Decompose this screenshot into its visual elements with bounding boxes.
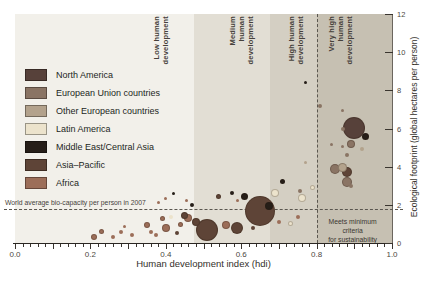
x-minor-tick xyxy=(23,244,24,247)
development-band-label: Very highhumandevelopment xyxy=(327,16,354,108)
country-bubble xyxy=(149,230,153,234)
country-bubble xyxy=(160,216,165,221)
legend-color-swatch xyxy=(25,177,47,189)
x-major-tick xyxy=(241,244,242,249)
x-minor-tick xyxy=(271,244,272,247)
y-tick xyxy=(385,205,393,206)
country-bubble xyxy=(119,230,123,234)
development-band-label-line: development xyxy=(161,16,170,108)
x-minor-tick xyxy=(60,244,61,247)
legend-color-swatch xyxy=(25,69,47,81)
x-axis-title: Human development index (hdi) xyxy=(15,258,392,269)
x-minor-tick xyxy=(173,244,174,247)
development-band-label: Mediumhumandevelopment xyxy=(228,16,255,108)
country-bubble xyxy=(175,231,179,235)
x-minor-tick xyxy=(143,244,144,247)
world-biocapacity-dashed-line xyxy=(4,209,403,210)
x-major-tick xyxy=(166,244,167,249)
legend-item: Latin America xyxy=(25,120,111,138)
country-bubble xyxy=(251,226,255,230)
x-minor-tick xyxy=(188,244,189,247)
legend-item-label: Other European countries xyxy=(56,106,159,116)
x-major-tick xyxy=(204,244,205,249)
x-major-tick xyxy=(15,244,16,249)
country-bubble xyxy=(296,215,300,219)
legend-item: Other European countries xyxy=(25,102,159,120)
country-bubble xyxy=(172,192,175,195)
legend-item: Asia–Pacific xyxy=(25,156,105,174)
development-band-label-line: Medium xyxy=(228,16,237,108)
x-minor-tick xyxy=(256,244,257,247)
country-bubble xyxy=(216,194,221,199)
legend-color-swatch xyxy=(25,159,47,171)
x-minor-tick xyxy=(234,244,235,247)
sustainability-label-line1: Meets minimum criteria xyxy=(321,217,385,235)
country-bubble xyxy=(144,222,150,228)
x-minor-tick xyxy=(45,244,46,247)
development-band-label-line: human xyxy=(237,16,246,108)
x-minor-tick xyxy=(302,244,303,247)
country-bubble xyxy=(277,220,281,224)
development-band-label-line: development xyxy=(345,16,354,108)
country-bubble xyxy=(192,218,200,226)
country-bubble xyxy=(245,196,275,226)
development-band-label-line: Very high xyxy=(327,16,336,108)
legend-color-swatch xyxy=(25,141,47,153)
legend-item: North America xyxy=(25,66,113,84)
country-bubble xyxy=(345,153,349,157)
legend-item-label: Africa xyxy=(56,178,79,188)
x-major-tick xyxy=(279,244,280,249)
legend-color-swatch xyxy=(25,123,47,135)
y-axis-title: Ecological footprint (global hectares pe… xyxy=(409,0,421,286)
country-bubble xyxy=(341,127,345,131)
legend-item: Middle East/Central Asia xyxy=(25,138,154,156)
development-band-label-line: development xyxy=(296,16,305,108)
country-bubble xyxy=(298,194,306,202)
ecological-footprint-vs-hdi-chart: Low humandevelopmentMediumhumandevelopme… xyxy=(0,0,429,286)
x-major-tick xyxy=(53,244,54,249)
development-band-label-line: High human xyxy=(287,16,296,108)
x-major-tick xyxy=(317,244,318,249)
x-minor-tick xyxy=(377,244,378,247)
x-minor-tick xyxy=(384,244,385,247)
legend-color-swatch xyxy=(25,87,47,99)
country-bubble xyxy=(185,199,188,202)
development-band-label: High humandevelopment xyxy=(287,16,305,108)
x-minor-tick xyxy=(286,244,287,247)
country-bubble xyxy=(236,199,239,202)
country-bubble xyxy=(222,221,230,229)
x-minor-tick xyxy=(121,244,122,247)
legend-item-label: Asia–Pacific xyxy=(56,160,105,170)
legend-item-label: European Union countries xyxy=(56,88,160,98)
x-minor-tick xyxy=(309,244,310,247)
x-minor-tick xyxy=(196,244,197,247)
y-tick xyxy=(385,129,393,130)
x-major-tick xyxy=(128,244,129,249)
x-major-tick xyxy=(392,244,393,249)
y-tick xyxy=(385,90,393,91)
x-minor-tick xyxy=(324,244,325,247)
y-tick xyxy=(385,243,393,244)
x-minor-tick xyxy=(68,244,69,247)
x-minor-tick xyxy=(332,244,333,247)
x-minor-tick xyxy=(294,244,295,247)
x-minor-tick xyxy=(211,244,212,247)
legend-item-label: Middle East/Central Asia xyxy=(56,142,154,152)
x-minor-tick xyxy=(158,244,159,247)
x-minor-tick xyxy=(105,244,106,247)
x-minor-tick xyxy=(219,244,220,247)
x-minor-tick xyxy=(264,244,265,247)
x-minor-tick xyxy=(362,244,363,247)
x-major-tick xyxy=(354,244,355,249)
x-minor-tick xyxy=(38,244,39,247)
x-minor-tick xyxy=(339,244,340,247)
x-minor-tick xyxy=(226,244,227,247)
x-minor-tick xyxy=(75,244,76,247)
country-bubble xyxy=(360,147,364,151)
legend-item: European Union countries xyxy=(25,84,160,102)
x-minor-tick xyxy=(30,244,31,247)
x-minor-tick xyxy=(181,244,182,247)
x-minor-tick xyxy=(136,244,137,247)
legend-item-label: Latin America xyxy=(56,124,111,134)
sustainability-threshold-dashed-line xyxy=(317,14,318,243)
